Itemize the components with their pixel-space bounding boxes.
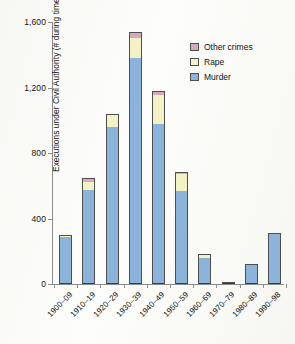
bar-segment-murder [198, 258, 211, 284]
legend-item-murder[interactable]: Murder [190, 72, 253, 82]
bar-segment-murder [82, 190, 95, 284]
bar-segment-rape [82, 182, 95, 189]
legend-label: Rape [204, 57, 224, 67]
y-tick-label: 1,200 [24, 83, 46, 93]
x-tick-mark [193, 284, 194, 288]
bar-1930-39[interactable] [129, 32, 142, 284]
legend-swatch-icon [190, 58, 199, 66]
bar-segment-rape [152, 95, 165, 124]
x-tick-mark [263, 284, 264, 288]
bar-segment-murder [152, 124, 165, 284]
x-tick-mark [170, 284, 171, 288]
y-tick-mark [48, 284, 53, 285]
bar-1970-79[interactable] [222, 282, 235, 284]
y-axis-title: Executions under Civil Authority (# duri… [51, 0, 61, 172]
chart-legend: Other crimesRapeMurder [190, 42, 253, 82]
legend-label: Murder [204, 72, 231, 82]
bar-1910-19[interactable] [82, 178, 95, 284]
bar-1920-29[interactable] [106, 114, 119, 284]
legend-label: Other crimes [204, 42, 253, 52]
bar-1900-09[interactable] [59, 235, 72, 284]
x-tick-mark [216, 284, 217, 288]
bar-1950-59[interactable] [175, 172, 188, 284]
bar-segment-murder [129, 58, 142, 284]
y-tick-label: 0 [41, 279, 46, 289]
y-tick-mark [48, 219, 53, 220]
bar-segment-rape [175, 174, 188, 191]
bar-1990-98[interactable] [268, 233, 281, 284]
x-tick-mark [124, 284, 125, 288]
x-tick-mark [100, 284, 101, 288]
x-tick-mark [54, 284, 55, 288]
bar-segment-murder [175, 191, 188, 284]
chart-page: Executions under Civil Authority (# duri… [0, 0, 295, 344]
y-tick-label: 800 [32, 148, 46, 158]
legend-item-rape[interactable]: Rape [190, 57, 253, 67]
bar-segment-murder [245, 264, 258, 284]
bar-segment-murder [222, 282, 235, 284]
x-tick-mark [77, 284, 78, 288]
bar-segment-murder [106, 127, 119, 284]
bar-segment-rape [106, 115, 119, 126]
y-tick-label: 400 [32, 214, 46, 224]
y-tick-label: 1,600 [24, 17, 46, 27]
y-tick-mark [48, 88, 53, 89]
x-tick-mark [286, 284, 287, 288]
y-tick-mark [48, 22, 53, 23]
legend-swatch-icon [190, 73, 199, 81]
bar-1940-49[interactable] [152, 91, 165, 284]
x-axis-line [52, 284, 284, 285]
bar-segment-murder [59, 237, 72, 284]
legend-item-other-crimes[interactable]: Other crimes [190, 42, 253, 52]
bar-1960-69[interactable] [198, 254, 211, 284]
bar-1980-89[interactable] [245, 264, 258, 284]
x-tick-mark [240, 284, 241, 288]
bar-segment-murder [268, 233, 281, 284]
bar-segment-rape [129, 38, 142, 58]
y-tick-mark [48, 153, 53, 154]
legend-swatch-icon [190, 43, 199, 51]
x-tick-mark [147, 284, 148, 288]
